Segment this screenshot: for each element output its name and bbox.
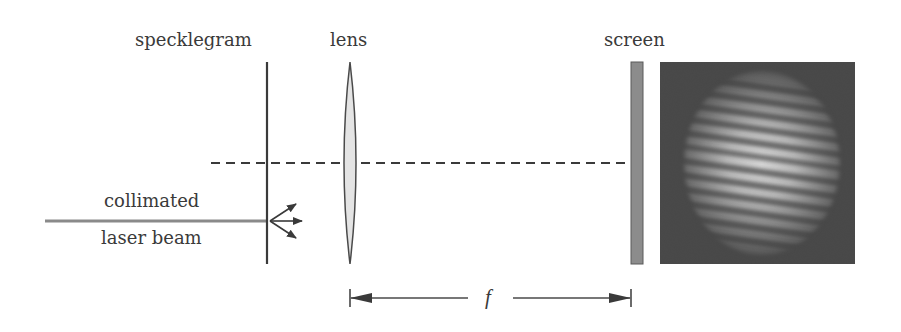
focal-length-label: f xyxy=(485,287,491,308)
specklegram-label: specklegram xyxy=(135,31,252,49)
lens-label: lens xyxy=(330,31,367,49)
screen-bar xyxy=(631,62,643,264)
beam-label-line2: laser beam xyxy=(101,229,202,247)
screen-label: screen xyxy=(604,31,665,49)
beam-label-line1: collimated xyxy=(104,192,199,210)
lens-shape xyxy=(344,62,356,264)
fringe-pattern-image xyxy=(630,62,890,264)
optical-setup-diagram: specklegram lens screen collimated laser… xyxy=(0,0,901,332)
scattered-rays-icon xyxy=(270,204,302,238)
